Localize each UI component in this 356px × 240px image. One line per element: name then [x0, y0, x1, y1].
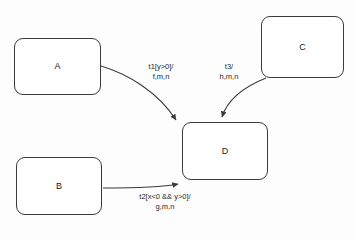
transition-label-t1-actions: f,m,n — [149, 72, 174, 82]
transition-label-t3-actions: h,m,n — [220, 72, 239, 82]
transition-label-t1: t1[y>0]/ f,m,n — [149, 62, 174, 82]
transition-label-t2-trigger-guard: t2[x<0 && y>0]/ — [139, 192, 190, 202]
state-node-c[interactable]: C — [261, 16, 344, 78]
state-node-b[interactable]: B — [16, 157, 102, 215]
state-label-c: C — [299, 43, 306, 52]
transition-label-t3: t3/ h,m,n — [220, 62, 239, 82]
transition-label-t1-trigger-guard: t1[y>0]/ — [149, 62, 174, 72]
transition-edge-t2[interactable] — [103, 184, 178, 188]
state-label-b: B — [56, 182, 62, 191]
state-diagram-canvas: A B C D t1[y>0]/ f,m,n t3/ h,m,n t2[x<0 … — [0, 0, 356, 240]
state-label-d: D — [222, 147, 229, 156]
transition-label-t3-trigger-guard: t3/ — [220, 62, 239, 72]
transition-label-t2-actions: g,m,n — [139, 202, 190, 212]
transition-edge-t3[interactable] — [222, 78, 266, 117]
state-node-a[interactable]: A — [14, 38, 101, 95]
state-label-a: A — [54, 62, 60, 71]
transition-label-t2: t2[x<0 && y>0]/ g,m,n — [139, 192, 190, 212]
state-node-d[interactable]: D — [182, 122, 268, 180]
